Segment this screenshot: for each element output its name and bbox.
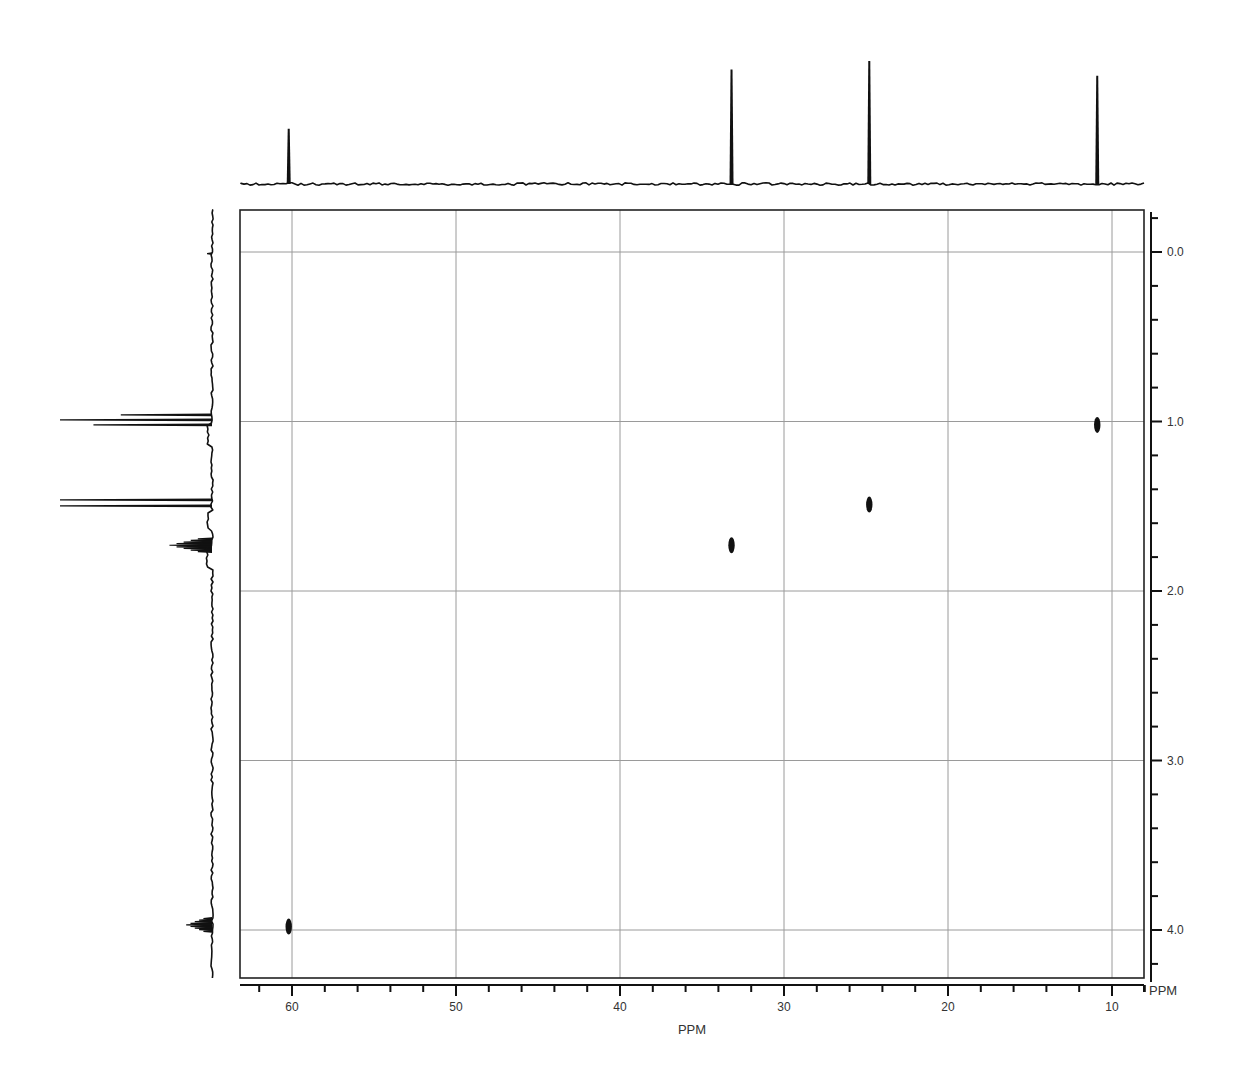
1h-peak [60,498,212,501]
1h-peak [60,504,212,507]
cross-peak [866,497,872,513]
13c-peak [867,61,871,184]
y-axis: 0.01.02.03.04.0 [1151,212,1184,982]
plot-frame [240,210,1144,978]
y-tick-label: 3.0 [1167,754,1184,768]
cross-peak [1094,417,1100,433]
hsqc-spectrum-chart: 605040302010 0.01.02.03.04.0 PPM PPM [0,0,1242,1079]
13c-peak [287,129,291,184]
x-tick-label: 30 [777,1000,791,1014]
cross-peaks [286,417,1101,935]
cross-peak [728,537,734,553]
x-tick-label: 10 [1105,1000,1119,1014]
left-projection-peaks [60,252,212,932]
y-tick-label: 4.0 [1167,923,1184,937]
x-tick-label: 60 [285,1000,299,1014]
x-axis: 605040302010 [240,985,1145,1014]
top-13c-projection [241,183,1144,185]
x-tick-label: 40 [613,1000,627,1014]
1h-peak [207,252,212,255]
1h-peak [121,413,212,416]
1h-peak [93,423,212,426]
1h-peak [60,418,212,421]
left-1h-projection [206,210,213,978]
y-axis-label: PPM [1149,983,1177,998]
13c-peak [730,70,734,184]
13c-peak [1095,76,1099,184]
cross-peak [286,919,292,935]
y-tick-label: 2.0 [1167,584,1184,598]
x-axis-label: PPM [678,1022,706,1037]
x-tick-label: 20 [941,1000,955,1014]
y-tick-label: 1.0 [1167,415,1184,429]
y-tick-label: 0.0 [1167,245,1184,259]
top-projection-peaks [287,61,1100,184]
x-tick-label: 50 [449,1000,463,1014]
grid-lines [240,210,1144,978]
